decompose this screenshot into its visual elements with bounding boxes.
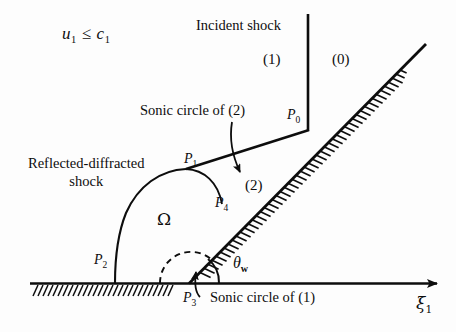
point-label-P0: P0 [287, 108, 300, 125]
omega-region-label: Ω [157, 211, 171, 228]
sonic-circle-of-2-label: Sonic circle of (2) [140, 103, 245, 118]
reflected-shock-label-line2: shock [28, 173, 144, 191]
theta-w-label: θw [233, 255, 248, 274]
sonic-circle-of-1-label: Sonic circle of (1) [210, 290, 315, 305]
shock-reflection-diagram: u1≤c1 Incident shock (1) (0) Sonic circl… [0, 0, 456, 332]
region-1-label: (1) [263, 52, 281, 67]
incident-shock-label: Incident shock [196, 18, 281, 33]
point-label-P3: P3 [183, 291, 196, 308]
reflected-shock-straight-segment [186, 130, 309, 169]
region-0-label: (0) [332, 52, 350, 67]
sonic-circle-of-2-leader-arrow [231, 122, 240, 172]
xi1-axis-label: ξ1 [416, 295, 432, 315]
reflected-shock-label-line1: Reflected-diffracted [28, 155, 144, 173]
horizontal-wall-hatching [33, 285, 173, 296]
point-label-P1: P1 [184, 152, 197, 169]
point-label-P4: P4 [215, 196, 228, 213]
flow-condition-label: u1≤c1 [62, 25, 110, 46]
point-label-P2: P2 [94, 253, 107, 270]
reflected-diffracted-shock-label: Reflected-diffracted shock [28, 155, 144, 190]
region-2-label: (2) [245, 178, 263, 193]
